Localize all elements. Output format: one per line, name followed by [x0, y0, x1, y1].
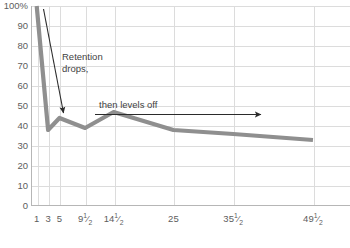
annotation-line-1: then levels off	[99, 99, 157, 111]
annotation-line-2: drops,	[62, 63, 103, 75]
chart-overlay	[0, 0, 350, 248]
annotation-line-1: Retention	[62, 51, 103, 63]
annotation-levels-off: then levels off	[99, 99, 157, 111]
retention-chart: 0102030405060708090100% 13591⁄2141⁄22535…	[0, 0, 350, 248]
annotation-retention-drops: Retention drops,	[62, 51, 103, 74]
